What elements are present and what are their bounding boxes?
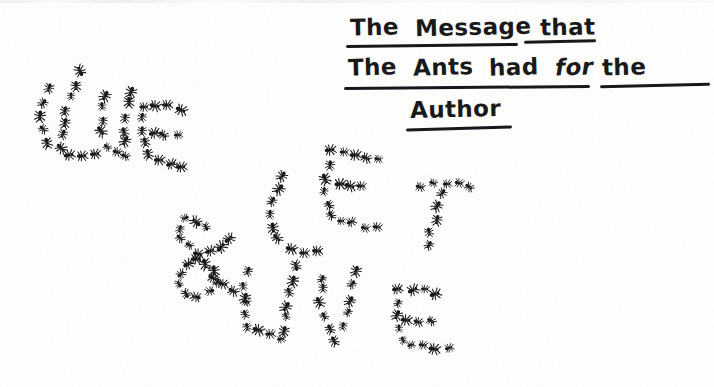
ant xyxy=(349,149,359,159)
ant xyxy=(34,110,44,120)
ant xyxy=(344,295,354,305)
caption-word: The xyxy=(348,53,398,80)
ant xyxy=(175,104,185,114)
ant xyxy=(324,323,334,333)
ant xyxy=(175,161,185,171)
ant xyxy=(37,123,47,133)
ant xyxy=(119,150,129,160)
ant xyxy=(405,339,415,349)
ant xyxy=(355,180,365,190)
ant xyxy=(136,111,146,121)
ant xyxy=(207,272,217,282)
caption-word: for xyxy=(555,53,594,80)
ant xyxy=(204,285,214,295)
ant xyxy=(190,253,200,263)
ant xyxy=(273,183,283,193)
ant xyxy=(342,306,352,316)
ant xyxy=(65,90,75,100)
ant xyxy=(101,141,111,151)
ant xyxy=(360,152,370,162)
ant xyxy=(285,243,295,253)
ant xyxy=(391,283,401,293)
ant xyxy=(318,185,328,195)
ant xyxy=(95,125,105,135)
caption-line-3: Author xyxy=(410,96,501,122)
ant xyxy=(400,314,410,324)
ant xyxy=(271,232,281,242)
ant xyxy=(423,226,433,236)
ant xyxy=(153,154,163,164)
ant xyxy=(227,285,237,295)
ant xyxy=(372,153,382,163)
caption-word: that xyxy=(540,13,596,40)
ant xyxy=(436,187,446,197)
ant xyxy=(242,265,252,275)
ant xyxy=(278,325,288,335)
ant xyxy=(179,212,189,222)
ant xyxy=(41,137,51,147)
ant xyxy=(423,239,433,249)
ant xyxy=(172,129,182,139)
ant xyxy=(142,148,152,158)
ant xyxy=(359,222,369,232)
ant xyxy=(264,328,274,338)
ant xyxy=(183,239,193,249)
ant xyxy=(157,129,167,139)
ant xyxy=(335,215,345,225)
ant xyxy=(217,278,227,288)
ant xyxy=(319,173,329,183)
caption-line-2: TheAntshadforthe xyxy=(348,54,646,80)
ant xyxy=(324,144,334,154)
ant xyxy=(99,90,109,100)
ant xyxy=(161,99,171,109)
caption-word: Ants xyxy=(413,53,474,81)
ant xyxy=(317,282,327,292)
ant xyxy=(298,247,308,257)
caption-word: The xyxy=(350,13,399,40)
ant xyxy=(431,200,441,210)
ant xyxy=(325,209,335,219)
ant xyxy=(280,310,290,320)
ant xyxy=(313,296,323,306)
ant xyxy=(239,292,249,302)
ant xyxy=(311,245,321,255)
ant xyxy=(345,216,355,226)
ant xyxy=(119,135,129,145)
ant xyxy=(427,177,437,187)
ant xyxy=(417,339,427,349)
caption-word: Author xyxy=(410,95,502,123)
ant xyxy=(237,280,247,290)
ant xyxy=(96,100,106,110)
caption-word: the xyxy=(602,53,647,80)
ant xyxy=(59,117,69,127)
caption-underline-2 xyxy=(524,39,596,43)
caption-underline-5 xyxy=(406,126,512,132)
ant xyxy=(337,320,347,330)
handwritten-caption: TheMessagethat TheAntshadforthe Author xyxy=(338,6,714,132)
ant xyxy=(57,128,67,138)
ant xyxy=(43,82,53,92)
ant xyxy=(429,288,439,298)
ant xyxy=(63,149,73,159)
ant xyxy=(59,105,69,115)
ant xyxy=(287,275,297,285)
ant xyxy=(76,150,86,160)
ant xyxy=(119,112,129,122)
ant xyxy=(283,286,293,296)
ant xyxy=(266,195,276,205)
ant xyxy=(149,100,159,110)
ant xyxy=(431,214,441,224)
ant xyxy=(344,180,354,190)
ant xyxy=(264,208,274,218)
ant xyxy=(350,265,360,275)
ant xyxy=(407,284,417,294)
ant xyxy=(318,310,328,320)
ant xyxy=(428,343,438,353)
ant xyxy=(89,148,99,158)
ant xyxy=(239,308,249,318)
ant xyxy=(74,65,84,75)
caption-underline-4 xyxy=(600,83,710,88)
ant xyxy=(324,159,334,169)
caption-line-1: TheMessagethat xyxy=(350,14,596,40)
ant xyxy=(290,260,300,270)
